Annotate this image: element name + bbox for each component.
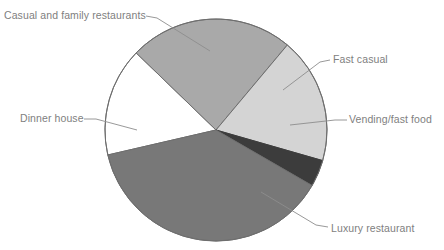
pie-label-casual-and-family-restaurants: Casual and family restaurants bbox=[4, 9, 146, 21]
pie-label-luxury-restaurant: Luxury restaurant bbox=[331, 222, 414, 234]
pie-label-vending-fast-food: Vending/fast food bbox=[349, 113, 432, 125]
pie-label-fast-casual: Fast casual bbox=[333, 53, 388, 65]
pie-label-dinner-house: Dinner house bbox=[20, 112, 84, 124]
pie-chart-canvas bbox=[0, 0, 444, 250]
pie-chart: Casual and family restaurants Dinner hou… bbox=[0, 0, 444, 250]
